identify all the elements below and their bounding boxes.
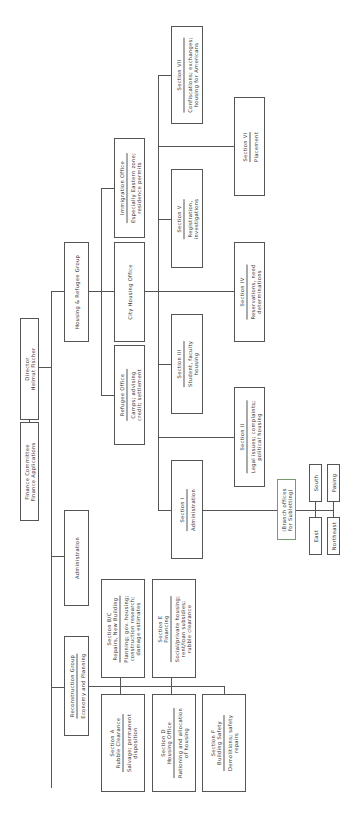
connector-sections-trunk [158,75,159,510]
section-vii-box: Section VIIConfiscations; exchanges;hous… [171,26,203,124]
sec5-desc-1: Registration, [184,198,193,238]
south-title: South [313,475,319,492]
northeast-branch-box: Northeast [327,517,340,555]
director-title: Director [24,348,30,391]
sec7-title: Section VII [176,37,184,112]
section-d-box: Section DHousing OfficeRationing and all… [152,694,196,792]
sec3-desc-1: Student, faculty [184,341,193,387]
connector-sec6 [158,146,234,147]
section-iii-box: Section IIIStudent, facultyhousing [171,314,203,414]
connector-director-trunk [51,291,52,788]
section-bc-box: Section B/CRepairs, New BuildingPlanning… [101,579,145,678]
section-vi-box: Section VIPlacement [234,97,265,196]
housing-refugee-group-box: Housing & Refugee Group [64,242,89,342]
secf-desc-2: repairs [233,715,239,771]
sec2-desc-1: Legal issues; complaints; [246,401,255,474]
connector-immigration [101,188,114,189]
seca-title-2: Rubble Clearance [115,714,123,772]
sec7-desc-2: housing for Americans [193,37,199,112]
branch-offices-box: (Branch officesfor Subletting) [277,479,296,540]
secbc-title-2: Repairs, New Building [112,595,120,662]
connector-south-east [315,502,316,517]
connector-director [39,367,51,368]
sec5-desc-2: investigations [193,198,199,238]
finance-committee-box: Finance CommitteeFinance Applications [20,422,39,521]
connector-sec5 [158,219,171,220]
connector-housing-group [51,291,64,292]
section-i-box: Section IAdministration [171,460,203,559]
administration-box: Administration [64,510,89,606]
sec2-desc-2: political housing [255,401,261,474]
director-box: DirectorHelmut Fischer [20,318,39,420]
connector-sec3 [158,364,171,365]
sec1-desc-1: Administration [187,488,196,530]
branch-line-2: for Subletting) [287,488,293,532]
connector-sec7 [158,75,171,76]
section-a-box: Section ARubble ClearanceSalvage; perman… [101,694,145,792]
section-f-box: Section FBuilding SafetyDemolitions; saf… [202,694,246,792]
east-title: East [313,530,319,542]
connector-administration [51,556,64,557]
housing-group-title: Housing & Refugee Group [74,255,80,329]
connector-e-d [171,678,172,694]
secbc-desc-1: Planning; gov. housing; [120,595,129,662]
secf-desc-1: Demolitions; safety [224,715,233,771]
connector-offices-trunk [101,188,102,395]
branch-line-1: (Branch offices [281,488,287,532]
connector-f [224,686,225,694]
sec5-title: Section V [176,198,184,238]
east-branch-box: East [309,517,322,555]
section-e-box: Section EFinancingSocial/private housing… [152,579,196,678]
secd-title-2: Housing Office [166,708,174,778]
city-housing-office-box: City Housing Office [114,242,145,342]
sec1-title: Section I [179,488,187,530]
pasing-title: Pasing [331,474,337,493]
sec6-desc-1: Placement [249,131,258,161]
administration-title: Administration [74,537,80,579]
director-name: Helmut Fischer [30,348,36,391]
section-iv-box: Section IVReservations, needdeterminatio… [234,242,265,342]
connector-sec1 [158,510,171,511]
secf-title-2: Building Safety [216,715,224,771]
sece-desc-3: rubble clearance [186,595,192,661]
immigration-desc-2: residence permits [135,153,141,223]
connector-bc-a [120,678,121,694]
sece-desc-1: Social/private housing; [171,595,180,661]
sec3-title: Section III [176,341,184,387]
sec6-title: Section VI [241,131,249,161]
reconstruction-title: Reconstruction Group [68,653,76,718]
sece-title-2: Financing [163,595,171,661]
sec3-desc-2: housing [193,341,199,387]
connector-refugee [101,395,114,396]
secd-desc-2: of housing [183,708,189,778]
connector-reconstruction [51,687,64,688]
seca-desc-2: disposition [132,714,138,772]
connector-pasing-northeast [333,502,334,517]
immigration-desc-1: Especially Eastern zone; [126,153,135,223]
refugee-title: Refugee Office [118,369,126,421]
connector-sec1-branch [203,510,277,511]
finance-subtitle: Finance Applications [30,442,36,501]
refugee-office-box: Refugee OfficeCamps; advisingcredit; set… [114,345,145,445]
section-ii-box: Section IILegal issues; complaints;polit… [234,387,265,487]
immigration-title: Immigration Office [118,153,126,223]
reconstruction-subtitle: Economy and Planning [76,653,85,718]
sec4-desc-1: Reservations, need [246,264,255,319]
pasing-branch-box: Pasing [327,464,340,502]
refugee-desc-1: Camps; advising [126,369,135,421]
sec4-desc-2: determinations [255,264,261,319]
connector-sec2 [158,437,234,438]
sec4-title: Section IV [238,264,246,319]
refugee-desc-2: credit; settlement [135,369,141,421]
south-branch-box: South [309,464,322,502]
sec7-desc-1: Confiscations; exchanges; [184,37,193,112]
section-v-box: Section VRegistration,investigations [171,169,203,268]
seca-desc-1: Salvage; permanent [123,714,132,772]
sec2-title: Section II [238,401,246,474]
secd-desc-1: Rationing and allocation [174,708,183,778]
northeast-title: Northeast [331,522,337,550]
city-housing-title: City Housing Office [127,264,133,319]
finance-title: Finance Committee [24,442,30,501]
reconstruction-group-box: Reconstruction GroupEconomy and Planning [64,636,89,736]
connector-recon-sections [89,686,224,687]
